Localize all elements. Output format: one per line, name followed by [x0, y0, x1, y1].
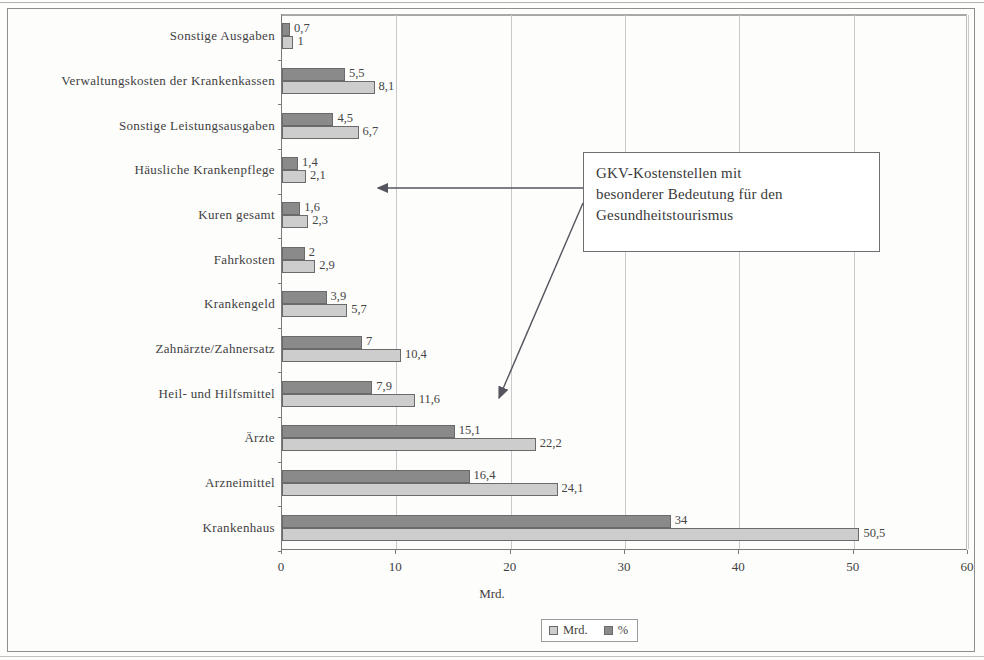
page-top-rule [0, 2, 984, 3]
bar-value-label-mrd: 8,1 [379, 80, 395, 93]
bar-value-label-mrd: 5,7 [351, 303, 367, 316]
bar-mrd [282, 528, 859, 541]
y-axis-tick [278, 417, 282, 418]
chart-page: Sonstige AusgabenVerwaltungskosten der K… [0, 0, 984, 660]
y-axis-tick [278, 506, 282, 507]
annotation-callout: GKV-Kostenstellen mit besonderer Bedeutu… [583, 152, 880, 252]
bar-value-label-pct: 15,1 [459, 424, 481, 437]
plot-area: 0,715,58,14,56,71,42,11,62,322,93,95,771… [281, 14, 967, 550]
gridline [739, 15, 740, 549]
bar-value-label-mrd: 50,5 [863, 527, 885, 540]
chart-legend: Mrd.% [541, 619, 638, 642]
bar-pct [282, 425, 455, 438]
y-axis-tick [278, 60, 282, 61]
bar-value-label-pct: 16,4 [474, 469, 496, 482]
y-axis-tick [278, 462, 282, 463]
gridline [968, 15, 969, 549]
bar-value-label-mrd: 2,3 [312, 214, 328, 227]
y-axis-tick [278, 194, 282, 195]
annotation-callout-text: GKV-Kostenstellen mit besonderer Bedeutu… [596, 163, 869, 226]
bar-pct [282, 247, 305, 260]
bar-mrd [282, 81, 375, 94]
bar-pct [282, 202, 300, 215]
y-axis-tick [278, 328, 282, 329]
bar-pct [282, 291, 327, 304]
y-axis-tick [278, 238, 282, 239]
bar-value-label-pct: 34 [675, 514, 688, 527]
category-label: Heil- und Hilfsmittel [0, 387, 275, 401]
category-label: Ärzte [0, 431, 275, 445]
gridline [396, 15, 397, 549]
bar-pct [282, 381, 372, 394]
bar-pct [282, 470, 470, 483]
category-label: Sonstige Leistungsausgaben [0, 119, 275, 133]
bar-value-label-mrd: 11,6 [419, 393, 440, 406]
gridline [511, 15, 512, 549]
bar-value-label-mrd: 2,1 [310, 169, 326, 182]
y-axis-tick [278, 283, 282, 284]
bar-value-label-mrd: 22,2 [540, 437, 562, 450]
legend-item: Mrd. [549, 623, 588, 638]
x-axis-tick-label: 30 [618, 559, 631, 575]
bar-value-label-pct: 5,5 [349, 67, 365, 80]
bar-value-label-mrd: 6,7 [363, 125, 379, 138]
x-axis-tick-mark [853, 550, 854, 554]
legend-label: Mrd. [563, 623, 588, 638]
category-label: Fahrkosten [0, 253, 275, 267]
bar-mrd [282, 483, 558, 496]
x-axis-tick-label: 20 [503, 559, 516, 575]
bar-pct [282, 68, 345, 81]
legend-item: % [604, 623, 628, 638]
bar-value-label-pct: 7,9 [376, 380, 392, 393]
page-bottom-rule [0, 656, 984, 657]
legend-label: % [618, 623, 628, 638]
x-axis-tick-label: 60 [961, 559, 974, 575]
gridline [625, 15, 626, 549]
category-label: Krankengeld [0, 297, 275, 311]
bar-mrd [282, 304, 347, 317]
bar-value-label-pct: 7 [366, 335, 372, 348]
category-label: Krankenhaus [0, 521, 275, 535]
x-axis-tick-label: 10 [389, 559, 402, 575]
x-axis-tick-label: 40 [732, 559, 745, 575]
x-axis-tick-mark [738, 550, 739, 554]
category-label: Häusliche Krankenpflege [0, 163, 275, 177]
x-axis-tick-mark [395, 550, 396, 554]
bar-value-label-mrd: 24,1 [562, 482, 584, 495]
legend-swatch-pct [604, 626, 613, 635]
y-axis-tick [278, 372, 282, 373]
category-label: Kuren gesamt [0, 208, 275, 222]
x-axis-tick-label: 0 [278, 559, 285, 575]
x-axis-tick-mark [510, 550, 511, 554]
bar-mrd [282, 126, 359, 139]
plot-top-edge [282, 15, 966, 16]
bar-value-label-pct: 4,5 [337, 112, 353, 125]
bar-mrd [282, 438, 536, 451]
x-axis-tick-label: 50 [846, 559, 859, 575]
y-axis-tick [278, 149, 282, 150]
bar-pct [282, 515, 671, 528]
category-label: Verwaltungskosten der Krankenkassen [0, 74, 275, 88]
bar-pct [282, 157, 298, 170]
bar-value-label-pct: 2 [309, 246, 315, 259]
bar-mrd [282, 349, 401, 362]
bar-value-label-pct: 3,9 [331, 290, 347, 303]
bar-pct [282, 336, 362, 349]
bar-value-label-mrd: 1 [297, 35, 303, 48]
bar-value-label-mrd: 10,4 [405, 348, 427, 361]
category-label: Sonstige Ausgaben [0, 29, 275, 43]
bar-mrd [282, 36, 293, 49]
bar-mrd [282, 394, 415, 407]
legend-swatch-mrd [549, 626, 558, 635]
x-axis-tick-mark [967, 550, 968, 554]
bar-mrd [282, 170, 306, 183]
category-label: Zahnärzte/Zahnersatz [0, 342, 275, 356]
bar-mrd [282, 215, 308, 228]
bar-pct [282, 23, 290, 36]
category-label: Arzneimittel [0, 476, 275, 490]
gridline [854, 15, 855, 549]
bar-mrd [282, 260, 315, 273]
x-axis-title: Mrd. [0, 586, 984, 602]
x-axis-tick-mark [624, 550, 625, 554]
x-axis-tick-mark [281, 550, 282, 554]
